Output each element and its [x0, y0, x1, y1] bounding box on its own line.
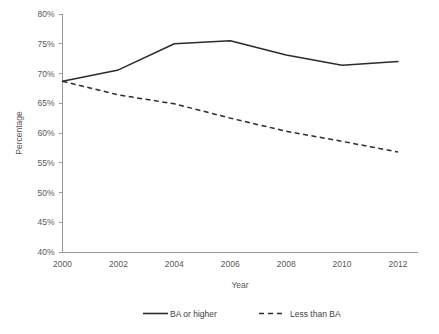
series-line-ba-or-higher	[63, 41, 399, 81]
y-axis-title: Percentage	[14, 111, 24, 155]
x-tick-label: 2008	[277, 259, 296, 269]
y-tick-label: 70%	[37, 69, 54, 79]
y-tick-label: 50%	[37, 188, 54, 198]
line-chart: 40%45%50%55%60%65%70%75%80% 200020022004…	[0, 0, 439, 334]
x-tick-label: 2000	[53, 259, 72, 269]
chart-canvas: 40%45%50%55%60%65%70%75%80% 200020022004…	[0, 0, 439, 334]
x-tick-label: 2002	[109, 259, 128, 269]
y-tick-label: 80%	[37, 9, 54, 19]
plot-area	[63, 14, 419, 253]
x-tick-label: 2004	[165, 259, 184, 269]
legend: BA or higher Less than BA	[143, 309, 341, 319]
series-line-less-than-ba	[63, 81, 399, 152]
y-axis-ticks: 40%45%50%55%60%65%70%75%80%	[37, 9, 62, 257]
y-tick-label: 60%	[37, 128, 54, 138]
x-axis-title: Year	[231, 280, 248, 290]
series-group	[63, 41, 399, 152]
legend-label-ba-or-higher: BA or higher	[170, 309, 217, 319]
y-tick-label: 45%	[37, 217, 54, 227]
x-tick-label: 2012	[389, 259, 408, 269]
y-tick-label: 40%	[37, 247, 54, 257]
x-tick-label: 2006	[221, 259, 240, 269]
legend-label-less-than-ba: Less than BA	[290, 309, 341, 319]
x-axis-ticks: 2000200220042006200820102012	[53, 259, 408, 269]
y-tick-label: 65%	[37, 98, 54, 108]
y-tick-label: 75%	[37, 39, 54, 49]
y-tick-label: 55%	[37, 158, 54, 168]
x-tick-label: 2010	[333, 259, 352, 269]
